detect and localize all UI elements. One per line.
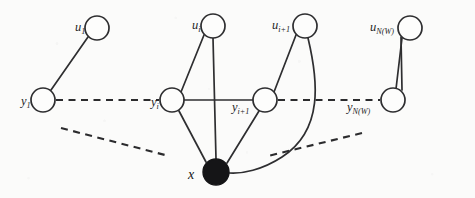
node-uNW[interactable] bbox=[398, 16, 422, 40]
edge-ui-yi bbox=[181, 35, 204, 92]
node-ui[interactable] bbox=[201, 14, 225, 38]
dashed-edge-y1-x bbox=[61, 128, 165, 155]
node-ui1[interactable] bbox=[293, 14, 317, 38]
node-yi[interactable] bbox=[160, 88, 184, 112]
label-ui: ui bbox=[192, 18, 201, 34]
label-x: x bbox=[187, 167, 195, 182]
node-u1[interactable] bbox=[85, 16, 109, 40]
label-y1: y1 bbox=[19, 94, 31, 110]
edge-yi1-x bbox=[227, 111, 259, 163]
label-yi1: yi+1 bbox=[230, 100, 249, 116]
node-yNW[interactable] bbox=[381, 88, 405, 112]
dashed-edge-yNW-x bbox=[268, 133, 362, 156]
node-y1[interactable] bbox=[31, 88, 55, 112]
top-label-group: u1 ui ui+1 uN(W) bbox=[75, 18, 394, 36]
edge-yi-x bbox=[179, 111, 206, 162]
middle-label-group: y1 yi yi+1 yN(W) bbox=[19, 94, 371, 116]
node-yi1[interactable] bbox=[253, 88, 277, 112]
edge-ui1-yi1 bbox=[274, 35, 296, 92]
label-ui1: ui+1 bbox=[272, 18, 290, 34]
label-uNW: uN(W) bbox=[370, 20, 394, 36]
node-x[interactable] bbox=[203, 159, 229, 185]
dashed-edge-group bbox=[56, 100, 380, 156]
graph-canvas: u1 ui ui+1 uN(W) y1 yi yi+1 yN bbox=[0, 0, 475, 198]
label-yNW: yN(W) bbox=[345, 100, 371, 116]
graph-figure: u1 ui ui+1 uN(W) y1 yi yi+1 yN bbox=[0, 0, 475, 198]
edge-u1-y1 bbox=[51, 37, 88, 90]
label-yi: yi bbox=[149, 95, 160, 111]
label-u1: u1 bbox=[75, 20, 85, 36]
solid-edge-group bbox=[51, 35, 402, 163]
edge-ui-x bbox=[213, 38, 216, 159]
